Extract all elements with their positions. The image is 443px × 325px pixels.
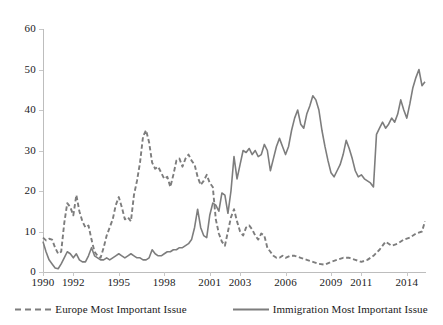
series-layer [0, 0, 443, 325]
legend-item[interactable]: Immigration Most Important Issue [233, 303, 428, 315]
series-europe-line [43, 130, 425, 264]
series-immigration-line [43, 70, 425, 269]
solid-line-swatch-icon [233, 305, 269, 314]
legend-label: Immigration Most Important Issue [273, 303, 428, 315]
line-chart: 0102030405060 19901992199519982001200320… [0, 0, 443, 325]
chart-legend: Europe Most Important IssueImmigration M… [0, 299, 443, 319]
legend-label: Europe Most Important Issue [55, 303, 186, 315]
dashed-line-swatch-icon [15, 305, 51, 314]
legend-item[interactable]: Europe Most Important Issue [15, 303, 186, 315]
